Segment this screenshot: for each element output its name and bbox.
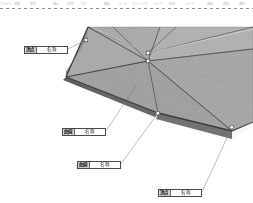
menu-item[interactable]: 挿入 [53, 0, 64, 8]
menu-item[interactable]: 属性 [239, 0, 253, 8]
leader-line-4 [202, 127, 232, 192]
callout-label-4[interactable]: 頂点 名称 [158, 189, 202, 197]
menu-item[interactable]: ウィンドウ [132, 0, 150, 8]
vertex-marker [156, 111, 160, 115]
callout-value: 名称 [171, 190, 201, 196]
menu-item[interactable]: 選択 [223, 0, 236, 8]
callout-key: 曲線 [63, 129, 75, 135]
callout-label-3[interactable]: 曲線 名称 [77, 161, 121, 169]
callout-key: 曲線 [78, 162, 90, 168]
callout-value: 名称 [90, 162, 120, 168]
menu-item[interactable]: ヘルプ [153, 0, 166, 8]
menu-item[interactable]: ファイル [0, 0, 11, 8]
callout-label-1[interactable]: 頂点 名称 [24, 46, 68, 54]
application-window: ファイル編集表示挿入形状寸法解析ツールウィンドウヘルプ設定レイヤ描画選択属性出力 [0, 0, 253, 203]
menu-item[interactable]: 編集 [14, 0, 27, 8]
callout-key: 頂点 [159, 190, 171, 196]
menu-item[interactable]: 表示 [30, 0, 50, 8]
menu-item[interactable]: レイヤ [185, 0, 204, 8]
leader-line-3 [121, 113, 158, 164]
model-viewport[interactable]: 頂点 名称 曲線 名称 曲線 名称 頂点 名称 [0, 9, 253, 203]
vertex-marker [146, 51, 150, 55]
vertex-marker [146, 59, 150, 63]
menu-item[interactable]: 設定 [169, 0, 182, 8]
callout-key: 頂点 [25, 47, 37, 53]
menu-item[interactable]: 解析 [104, 0, 115, 8]
callout-value: 名称 [37, 47, 67, 53]
menu-item[interactable]: 形状 [67, 0, 77, 8]
model-scene [0, 9, 253, 203]
callout-value: 名称 [75, 129, 105, 135]
callout-label-2[interactable]: 曲線 名称 [62, 128, 106, 136]
menu-item[interactable]: ツール [118, 0, 129, 8]
vertex-marker [84, 38, 88, 42]
menu-bar[interactable]: ファイル編集表示挿入形状寸法解析ツールウィンドウヘルプ設定レイヤ描画選択属性出力 [0, 0, 253, 8]
menu-item[interactable]: 描画 [207, 0, 220, 8]
vertex-marker [230, 125, 234, 129]
menu-item[interactable]: 寸法 [80, 0, 101, 8]
